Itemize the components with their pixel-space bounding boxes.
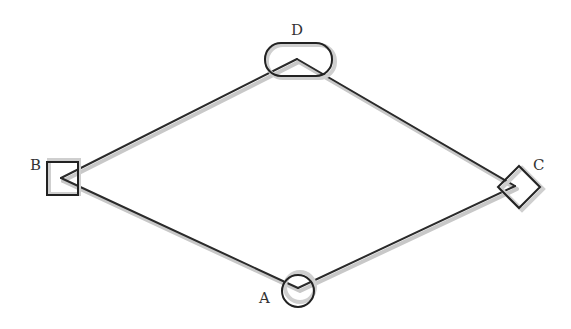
edge-d-c xyxy=(297,59,515,186)
node-label-a: A xyxy=(258,289,270,307)
node-label-d: D xyxy=(291,21,303,39)
edges xyxy=(61,59,515,288)
node-label-b: B xyxy=(30,156,41,174)
edge-b-a xyxy=(61,178,298,288)
node-c: C xyxy=(498,156,544,210)
graph-diagram: D B C A xyxy=(0,0,571,329)
node-label-c: C xyxy=(533,156,544,174)
edge-b-d xyxy=(61,59,297,178)
edge-shadows xyxy=(63,62,517,291)
edge-a-c xyxy=(298,186,515,288)
